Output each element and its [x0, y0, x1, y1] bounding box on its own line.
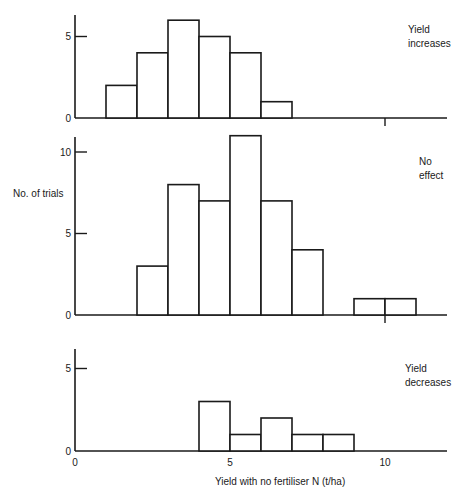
y-tick-label: 0: [65, 446, 71, 457]
histogram-bar: [385, 299, 416, 315]
x-tick-label: 5: [227, 457, 233, 468]
histogram-bar: [106, 85, 137, 118]
histogram-bar: [230, 136, 261, 315]
histogram-bar: [168, 20, 199, 118]
y-tick-label: 0: [65, 310, 71, 321]
panel-label: increases: [408, 38, 451, 49]
histogram-bar: [199, 402, 230, 452]
y-axis-label: No. of trials: [13, 188, 64, 199]
histogram-bar: [292, 250, 323, 315]
histogram-bar: [168, 185, 199, 315]
x-axis-label: Yield with no fertiliser N (t/ha): [215, 476, 345, 487]
histogram-bar: [261, 201, 292, 315]
histogram-bar: [137, 53, 168, 118]
histogram-bar: [292, 435, 323, 452]
x-tick-label: 0: [72, 457, 78, 468]
histogram-bar: [199, 201, 230, 315]
histogram-bar: [230, 435, 261, 452]
histogram-bar: [323, 435, 354, 452]
histogram-bar: [354, 299, 385, 315]
panel-yield-decreases: 05Yielddecreases: [65, 349, 451, 457]
histogram-bar: [199, 37, 230, 119]
histogram-chart: 05Yieldincreases0510Noeffect05Yielddecre…: [0, 0, 462, 501]
y-tick-label: 10: [60, 147, 72, 158]
histogram-panels: 05Yieldincreases0510Noeffect05Yielddecre…: [60, 15, 451, 468]
x-tick-label: 10: [379, 457, 391, 468]
y-tick-label: 5: [65, 31, 71, 42]
panel-yield-increases: 05Yieldincreases: [65, 15, 450, 126]
histogram-bar: [261, 418, 292, 451]
histogram-bar: [261, 102, 292, 118]
panel-label: No: [419, 156, 432, 167]
panel-label: effect: [419, 170, 443, 181]
histogram-bar: [230, 53, 261, 118]
panel-no-effect: 0510Noeffect: [60, 136, 447, 323]
panel-label: decreases: [405, 377, 451, 388]
y-tick-label: 5: [65, 363, 71, 374]
y-tick-label: 5: [65, 228, 71, 239]
histogram-bar: [137, 266, 168, 315]
panel-label: Yield: [408, 24, 430, 35]
y-tick-label: 0: [65, 113, 71, 124]
panel-label: Yield: [405, 363, 427, 374]
